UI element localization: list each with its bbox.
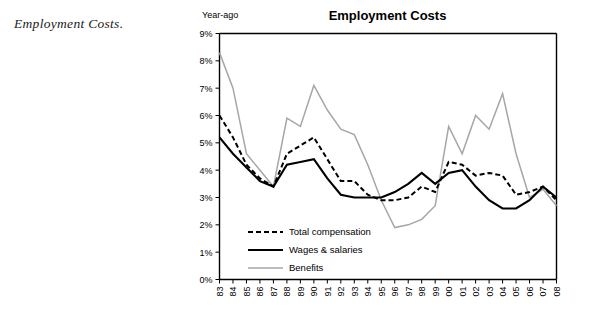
series-line-total-compensation [220, 116, 557, 201]
axis-frame [220, 34, 557, 280]
x-tick-label: 99 [431, 287, 441, 297]
x-tick-label: 83 [215, 287, 225, 297]
y-tick-label: 5% [199, 138, 212, 148]
y-tick-label: 3% [199, 193, 212, 203]
x-tick-label: 00 [444, 287, 454, 297]
series-group [220, 53, 557, 228]
x-tick-label: 04 [498, 287, 508, 297]
y-tick-label: 9% [199, 29, 212, 39]
x-tick-label: 86 [255, 287, 265, 297]
series-line-wages-salaries [220, 137, 557, 208]
legend-label-1: Total compensation [289, 226, 371, 237]
chart-canvas: 0%1%2%3%4%5%6%7%8%9%83848586878889909192… [0, 0, 592, 317]
x-tick-label: 88 [282, 287, 292, 297]
x-tick-label: 08 [552, 287, 562, 297]
x-axis-ticks: 8384858687888990919293949596979899000102… [215, 280, 562, 297]
y-tick-label: 2% [199, 220, 212, 230]
x-tick-label: 85 [242, 287, 252, 297]
x-tick-label: 07 [538, 287, 548, 297]
x-tick-label: 98 [417, 287, 427, 297]
legend-label-3: Benefits [289, 262, 324, 273]
x-tick-label: 05 [511, 287, 521, 297]
y-tick-label: 4% [199, 166, 212, 176]
x-tick-label: 87 [269, 287, 279, 297]
x-tick-label: 90 [309, 287, 319, 297]
chart-legend: Total compensationWages & salariesBenefi… [248, 226, 371, 273]
y-tick-label: 1% [199, 248, 212, 258]
x-tick-label: 97 [404, 287, 414, 297]
x-tick-label: 06 [525, 287, 535, 297]
x-tick-label: 02 [471, 287, 481, 297]
y-tick-label: 7% [199, 84, 212, 94]
series-line-benefits [220, 53, 557, 228]
x-tick-label: 01 [458, 287, 468, 297]
employment-costs-chart: Employment Costs Year-ago 0%1%2%3%4%5%6%… [0, 0, 592, 317]
x-tick-label: 84 [228, 287, 238, 297]
legend-label-2: Wages & salaries [289, 244, 363, 255]
x-tick-label: 93 [350, 287, 360, 297]
x-tick-label: 96 [390, 287, 400, 297]
x-tick-label: 89 [296, 287, 306, 297]
y-tick-label: 8% [199, 56, 212, 66]
x-tick-label: 91 [323, 287, 333, 297]
x-tick-label: 95 [377, 287, 387, 297]
y-tick-label: 0% [199, 275, 212, 285]
x-tick-label: 03 [485, 287, 495, 297]
y-axis-ticks: 0%1%2%3%4%5%6%7%8%9% [199, 29, 219, 285]
y-tick-label: 6% [199, 111, 212, 121]
x-tick-label: 92 [336, 287, 346, 297]
x-tick-label: 94 [363, 287, 373, 297]
